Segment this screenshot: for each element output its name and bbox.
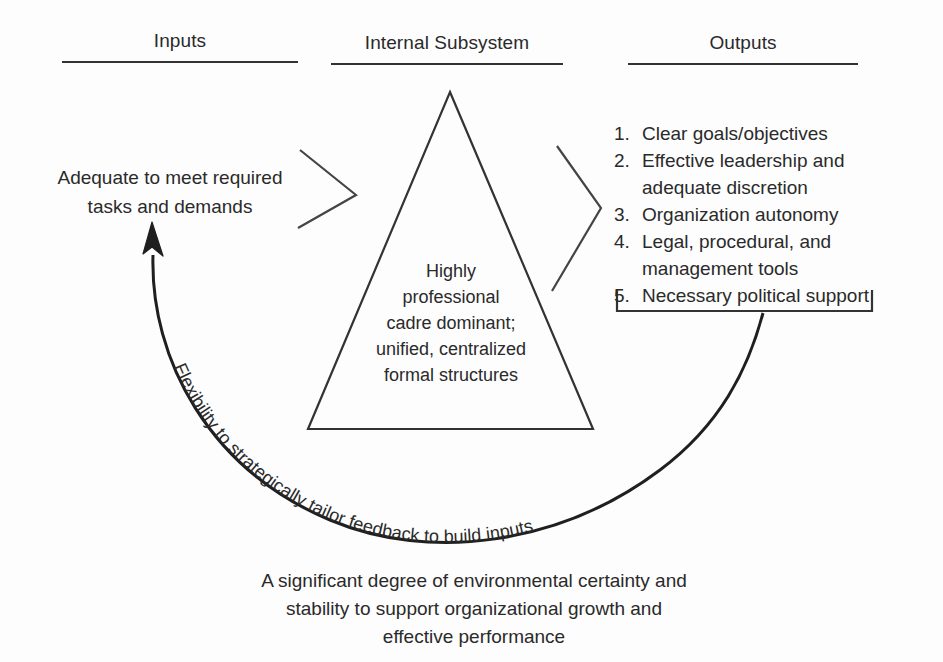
internal-line1: Highly (333, 258, 569, 284)
list-item-number: 5. (614, 282, 642, 309)
list-item-text: Legal, procedural, and (642, 228, 943, 255)
list-item-text: adequate discretion (642, 174, 943, 201)
inputs-description-line2: tasks and demands (42, 192, 298, 221)
list-item: 2. Effective leadership and (614, 147, 943, 174)
inputs-description: Adequate to meet required tasks and dema… (42, 163, 298, 221)
outputs-list: 1. Clear goals/objectives 2. Effective l… (614, 120, 943, 309)
feedback-loop-label: Flexibility to strategically tailor feed… (170, 360, 535, 546)
internal-line5: formal structures (333, 362, 569, 388)
internal-line3: cadre dominant; (333, 310, 569, 336)
list-item: 5. Necessary political support (614, 282, 943, 309)
list-item: 1. Clear goals/objectives (614, 120, 943, 147)
list-item: management tools (614, 255, 943, 282)
list-item: 3. Organization autonomy (614, 201, 943, 228)
internal-line2: professional (333, 284, 569, 310)
list-item-text: Clear goals/objectives (642, 120, 943, 147)
list-item-number: 4. (614, 228, 642, 255)
internal-subsystem-description: Highly professional cadre dominant; unif… (333, 258, 569, 388)
bottom-caption-line1: A significant degree of environmental ce… (146, 567, 802, 595)
feedback-loop-label-path: Flexibility to strategically tailor feed… (170, 360, 535, 546)
list-item-text: Effective leadership and (642, 147, 943, 174)
outputs-list-items: 1. Clear goals/objectives 2. Effective l… (614, 120, 943, 309)
bottom-caption: A significant degree of environmental ce… (146, 567, 802, 651)
list-item-text: management tools (642, 255, 943, 282)
internal-line4: unified, centralized (333, 336, 569, 362)
list-item-number: 2. (614, 147, 642, 174)
inputs-flow-arrow (298, 150, 356, 228)
feedback-arrowhead-icon (143, 222, 163, 256)
list-item-number: 1. (614, 120, 642, 147)
list-item: 4. Legal, procedural, and (614, 228, 943, 255)
list-item-text: Organization autonomy (642, 201, 943, 228)
list-item-text: Necessary political support (642, 282, 943, 309)
inputs-description-line1: Adequate to meet required (42, 163, 298, 192)
bottom-caption-line2: stability to support organizational grow… (146, 595, 802, 623)
list-item-number: 3. (614, 201, 642, 228)
diagram-canvas: Inputs Internal Subsystem Outputs Flexib… (0, 0, 943, 662)
list-item: adequate discretion (614, 174, 943, 201)
bottom-caption-line3: effective performance (146, 623, 802, 651)
